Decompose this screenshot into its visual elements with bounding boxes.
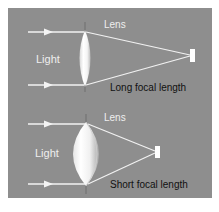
- focal-length-diagram: Light Lens Long focal length Light Lens …: [0, 0, 219, 212]
- light-label: Light: [36, 53, 60, 65]
- focal-point-marker: [190, 49, 195, 62]
- light-label: Light: [35, 147, 59, 159]
- lens-label: Lens: [104, 19, 126, 30]
- focal-point-marker: [155, 146, 160, 158]
- focal-length-caption: Short focal length: [110, 179, 188, 190]
- panel-background: [8, 8, 212, 198]
- lens-label: Lens: [104, 112, 126, 123]
- focal-length-caption: Long focal length: [110, 82, 186, 93]
